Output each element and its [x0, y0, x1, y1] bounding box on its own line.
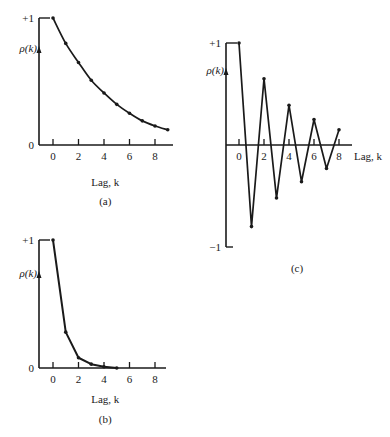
data-point [312, 118, 316, 122]
x-tick-label: 6 [127, 150, 133, 162]
x-tick-label: 0 [236, 150, 242, 162]
data-point [128, 111, 132, 115]
data-point [64, 330, 68, 334]
data-point [300, 180, 304, 184]
data-point [140, 119, 144, 123]
data-line [53, 240, 117, 368]
x-tick-label: 2 [76, 373, 82, 385]
x-tick-label: 8 [152, 150, 158, 162]
data-point [115, 366, 119, 370]
x-tick-label: 4 [101, 373, 107, 385]
y-axis-arrow-icon [224, 68, 229, 75]
x-tick-label: 6 [311, 150, 317, 162]
y-top-label: +1 [22, 234, 34, 246]
data-point [153, 124, 157, 128]
data-point [337, 128, 341, 132]
y-axis-label: ρ(k) [19, 267, 38, 280]
y-zero-label: 0 [29, 362, 35, 374]
data-point [166, 128, 170, 132]
x-tick-label: 6 [127, 373, 133, 385]
data-point [102, 365, 106, 369]
x-tick-label: 0 [50, 150, 56, 162]
panel-c: 02468+1−1ρ(k)Lag, k(c) [206, 37, 383, 275]
data-line [239, 43, 339, 227]
data-point [250, 225, 254, 229]
y-bottom-label: −1 [209, 241, 221, 253]
x-tick-label: 2 [261, 150, 267, 162]
data-line [53, 18, 168, 130]
y-axis-label: ρ(k) [19, 42, 38, 55]
data-point [51, 16, 55, 20]
data-point [51, 238, 55, 242]
x-tick-label: 8 [336, 150, 342, 162]
data-point [262, 77, 266, 81]
data-point [77, 61, 81, 65]
acf-figure: 02468+10ρ(k)Lag, k(a) 02468+10ρ(k)Lag, k… [0, 0, 390, 437]
x-axis-label: Lag, k [354, 150, 383, 162]
panel-a: 02468+10ρ(k)Lag, k(a) [19, 12, 174, 208]
data-point [287, 103, 291, 107]
panel-caption: (c) [291, 262, 304, 275]
data-point [275, 196, 279, 200]
data-point [237, 41, 241, 45]
x-axis-label: Lag, k [91, 393, 120, 405]
panel-caption: (a) [99, 195, 112, 208]
y-axis-arrow-icon [37, 46, 42, 53]
data-point [115, 103, 119, 107]
data-point [77, 356, 81, 360]
y-top-label: +1 [22, 12, 34, 24]
y-axis-arrow-icon [37, 271, 42, 278]
x-axis-label: Lag, k [91, 176, 120, 188]
data-point [64, 42, 68, 46]
x-tick-label: 4 [101, 150, 107, 162]
data-point [89, 362, 93, 366]
data-point [102, 91, 106, 95]
x-tick-label: 8 [152, 373, 158, 385]
data-point [325, 167, 329, 171]
panel-b: 02468+10ρ(k)Lag, k(b) [19, 234, 167, 426]
x-tick-label: 4 [286, 150, 292, 162]
x-tick-label: 0 [50, 373, 56, 385]
y-top-label: +1 [209, 37, 221, 49]
y-zero-label: 0 [29, 139, 35, 151]
y-axis-label: ρ(k) [206, 64, 225, 77]
panel-caption: (b) [99, 413, 112, 426]
data-point [89, 78, 93, 82]
x-tick-label: 2 [76, 150, 82, 162]
